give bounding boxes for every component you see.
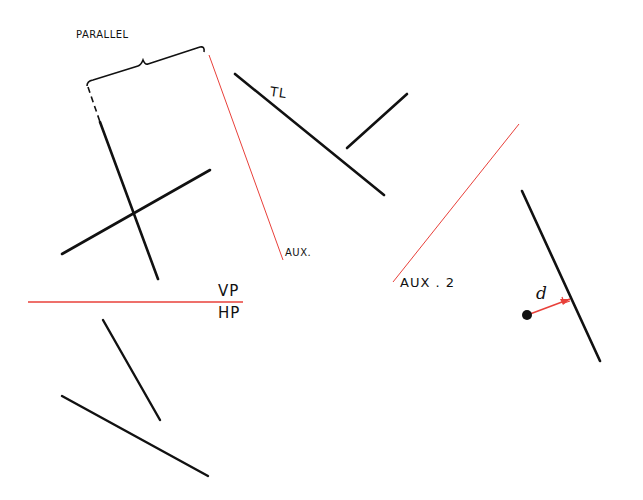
- crossing-line: [62, 170, 210, 254]
- tl-label: TL: [269, 85, 288, 100]
- aux-2-label: AUX . 2: [400, 276, 455, 289]
- short-line: [347, 94, 407, 148]
- point-marker: [522, 310, 532, 320]
- lower-long-line: [62, 396, 208, 476]
- lower-short-line: [103, 320, 160, 420]
- parallel-label: PARALLEL: [76, 30, 129, 40]
- distance-label: d: [536, 285, 547, 302]
- diagram-canvas: [0, 0, 643, 500]
- parallel-left-line: [100, 122, 158, 279]
- aux-2-line: [393, 124, 519, 282]
- right-line: [522, 191, 600, 361]
- vp-label: VP: [218, 284, 239, 299]
- hp-label: HP: [218, 306, 240, 321]
- parallel-dashed-extension: [88, 87, 100, 122]
- aux-1-label: AUX.: [285, 248, 311, 258]
- parallel-bracket: [87, 47, 204, 86]
